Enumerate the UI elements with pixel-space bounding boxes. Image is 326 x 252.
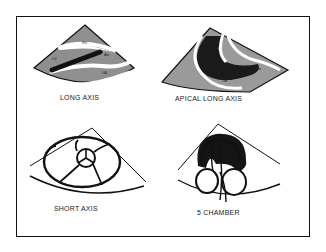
chamber-label-ao: Ao xyxy=(256,66,262,71)
short-axis-echo-view xyxy=(26,124,151,200)
long-axis-echo-view: Rv LV Ao LA xyxy=(30,22,140,94)
panel-label-apical-long-axis: APICAL LONG AXIS xyxy=(175,95,242,102)
panel-label-short-axis: SHORT AXIS xyxy=(54,205,98,212)
chamber-label-lv: LV xyxy=(218,46,223,51)
apical-long-axis-echo-view: LV LA Ao xyxy=(162,26,292,92)
panel-label-five-chamber: 5 CHAMBER xyxy=(197,209,240,216)
chamber-label-lv: LV xyxy=(52,56,57,61)
five-chamber-echo-view xyxy=(176,122,306,206)
chamber-label-la: LA xyxy=(222,78,227,83)
chamber-label-ao: Ao xyxy=(104,52,110,57)
chamber-label-rv: Rv xyxy=(82,40,87,45)
chamber-label-la: LA xyxy=(102,70,107,75)
panel-label-long-axis: LONG AXIS xyxy=(60,94,99,101)
